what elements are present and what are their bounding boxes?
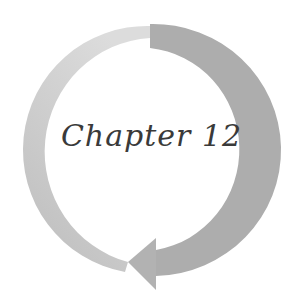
chapter-title: Chapter 12	[0, 118, 299, 153]
chapter-heading-graphic: Chapter 12	[0, 0, 299, 308]
arrowhead	[128, 238, 156, 290]
circular-arrow-icon	[0, 0, 299, 308]
